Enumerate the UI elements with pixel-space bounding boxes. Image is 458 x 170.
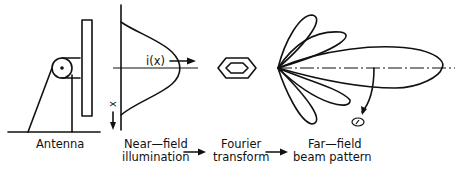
side-lobe-lower-1: [278, 68, 350, 105]
label-near-field-2: illumination: [122, 150, 190, 164]
reflector-plate: [82, 20, 92, 116]
label-fourier-1: Fourier: [221, 137, 262, 151]
label-fourier-2: transform: [213, 150, 269, 164]
angle-marker-stroke: [356, 120, 359, 124]
x-arrow-head: [110, 122, 116, 130]
diagram-canvas: i(x) x Antenna Near—field illumination F…: [0, 0, 458, 170]
pivot-dot: [60, 66, 64, 70]
side-lobe-upper-1: [278, 32, 346, 68]
flow-arrow-2-head: [280, 149, 288, 156]
hexagon-outer: [218, 58, 256, 78]
mount-bracket: [62, 58, 80, 78]
label-far-field-1: Far—field: [308, 137, 362, 151]
far-field-figure: [278, 15, 455, 126]
near-field-figure: i(x) x: [107, 5, 198, 130]
arrow-head: [187, 58, 196, 65]
label-far-field-2: beam pattern: [293, 150, 372, 164]
support-leg: [28, 68, 52, 132]
label-antenna: Antenna: [36, 137, 84, 151]
label-near-field-1: Near—field: [124, 137, 188, 151]
antenna-figure: [8, 20, 100, 132]
fourier-symbol: [218, 58, 256, 78]
hexagon-inner: [226, 63, 248, 73]
angle-arc: [362, 68, 374, 112]
illumination-label: i(x): [146, 54, 165, 68]
flow-arrow-1-head: [198, 149, 206, 156]
x-axis-label: x: [107, 101, 118, 107]
